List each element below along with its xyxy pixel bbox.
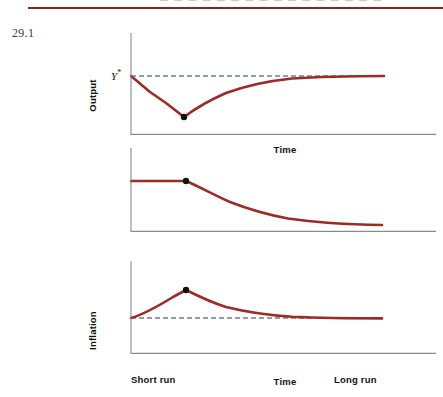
header-rule xyxy=(28,7,443,9)
plot-area-real-interest-rate xyxy=(0,258,443,368)
running-head-fragment: — — — — — — — — — — — — — — — — xyxy=(160,0,443,5)
series-line-inflation xyxy=(131,181,382,225)
plot-area-output xyxy=(0,30,443,135)
marker-inflation-kink xyxy=(183,178,189,184)
timeline-label-long-run: Long run xyxy=(334,374,377,385)
chart-panel-output: Output Y* Time xyxy=(0,30,443,135)
series-line-output xyxy=(131,76,384,117)
x-axis-label-inflation: Time xyxy=(245,376,325,387)
chart-panel-inflation: Inflation Time xyxy=(0,145,443,250)
timeline-label-short-run: Short run xyxy=(131,374,176,385)
plot-area-inflation xyxy=(0,145,443,250)
marker-real-rate-peak xyxy=(183,287,189,293)
marker-output-trough xyxy=(181,114,187,120)
chart-panel-real-interest-rate: Real interest rate Time xyxy=(0,258,443,368)
series-line-real-interest-rate xyxy=(131,290,382,318)
running-head-text: — — — — — — — — — — — — — — — — xyxy=(160,0,443,4)
